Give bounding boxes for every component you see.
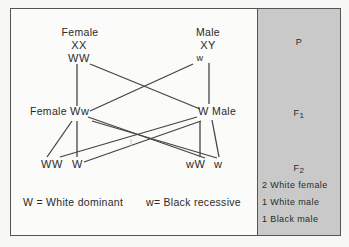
f1-female: Female Ww	[30, 105, 89, 117]
f2-offspring-3: wW	[186, 158, 205, 170]
generation-f1: F1	[294, 108, 305, 120]
generation-f1-sub: 1	[300, 111, 305, 120]
legend-recessive: w= Black recessive	[146, 196, 241, 208]
f2-offspring-2: W	[72, 158, 83, 170]
f1-male-genotype: W	[198, 105, 209, 117]
f2-offspring-1: WW	[41, 158, 63, 170]
f1-female-label: Female	[30, 105, 67, 117]
f2-offspring-4: w	[214, 158, 222, 170]
generation-f2: F2	[294, 163, 305, 175]
f1-male: W Male	[198, 105, 236, 117]
f1-male-label: Male	[212, 105, 236, 117]
parent-female-chromosomes: XX	[71, 39, 87, 51]
f1-female-genotype: Ww	[70, 105, 89, 117]
generation-p: P	[296, 37, 302, 47]
parent-male-genotype: w	[197, 53, 204, 63]
f2-result-3: 1 Black male	[262, 214, 318, 224]
generation-f2-sub: 2	[300, 166, 305, 175]
parent-female-genotype: WW	[68, 52, 90, 64]
parent-male-chromosomes: XY	[200, 39, 216, 51]
parent-female-label: Female	[62, 26, 99, 38]
f2-result-2: 1 White male	[262, 197, 319, 207]
legend-dominant: W = White dominant	[23, 196, 123, 208]
parent-male-label: Male	[196, 26, 220, 38]
f2-result-1: 2 White female	[262, 180, 328, 190]
